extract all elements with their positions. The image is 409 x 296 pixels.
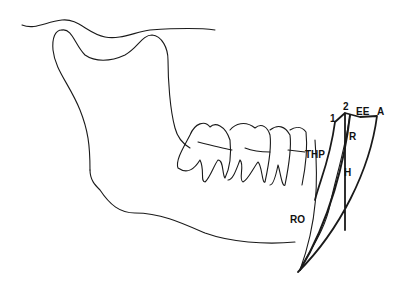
label-ro: RO bbox=[290, 215, 305, 225]
label-point-2: 2 bbox=[343, 102, 349, 112]
mandible-top-outline bbox=[22, 20, 215, 38]
label-thp: THP bbox=[305, 150, 325, 160]
label-h: H bbox=[344, 168, 351, 178]
label-a: A bbox=[377, 107, 384, 117]
label-ee: EE bbox=[356, 107, 369, 117]
mandible-diagram: 1 2 EE A R THP H RO bbox=[0, 0, 409, 296]
incisor-outline bbox=[300, 115, 350, 270]
molar-1 bbox=[270, 127, 291, 186]
inferior-border bbox=[90, 170, 295, 243]
label-point-1: 1 bbox=[330, 114, 336, 124]
cej-line bbox=[198, 142, 305, 152]
ramus-outline bbox=[53, 30, 90, 170]
molar-3 bbox=[177, 123, 230, 182]
label-r: R bbox=[349, 132, 356, 142]
sigmoid-notch bbox=[62, 30, 190, 148]
molar-2 bbox=[228, 124, 271, 183]
mandible-drawing bbox=[0, 0, 409, 296]
measurement-lines bbox=[298, 113, 377, 272]
